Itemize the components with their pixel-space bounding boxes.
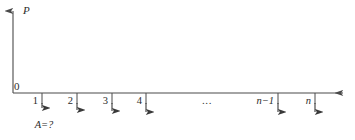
tick-group-4: 4 bbox=[137, 93, 146, 112]
origin-label: 0 bbox=[14, 80, 20, 92]
axis-diagram: P 0 1 2 3 4 ... bbox=[0, 0, 355, 140]
annotation-a-unknown: A=? bbox=[34, 119, 54, 130]
tick-label: n bbox=[306, 95, 311, 106]
tick-label: n−1 bbox=[256, 95, 274, 106]
tick-group-1: 1 bbox=[33, 93, 42, 108]
tick-label: 2 bbox=[68, 95, 73, 106]
tick-label: 3 bbox=[103, 95, 108, 106]
tick-group-3: 3 bbox=[103, 93, 112, 111]
tick-group-n-minus-1: n−1 bbox=[256, 93, 278, 112]
ellipsis-label: ... bbox=[202, 94, 212, 106]
vertical-axis-label: P bbox=[22, 4, 30, 16]
tick-label: 4 bbox=[137, 95, 143, 106]
tick-group-2: 2 bbox=[68, 93, 77, 110]
figure-canvas: P 0 1 2 3 4 ... bbox=[0, 0, 355, 140]
tick-label: 1 bbox=[33, 95, 38, 106]
tick-group-n: n bbox=[306, 93, 315, 112]
